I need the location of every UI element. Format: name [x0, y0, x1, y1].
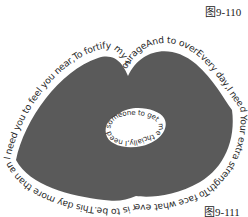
figure-label-bottom: 图9-111 — [204, 203, 240, 217]
lips-text-on-path-artwork: I need you to feel you near,To fortify m… — [0, 0, 248, 217]
